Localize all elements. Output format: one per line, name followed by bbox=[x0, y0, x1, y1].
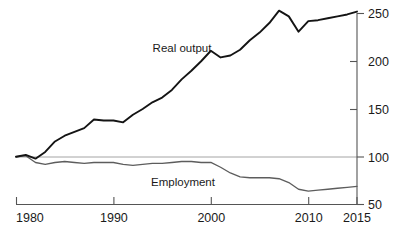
y-tick-label-200: 200 bbox=[368, 55, 389, 69]
y-tick-label-50: 50 bbox=[368, 198, 382, 212]
y-tick-label-100: 100 bbox=[368, 151, 389, 165]
series-annotations: Real output Employment bbox=[151, 42, 216, 188]
x-tick-label-1990: 1990 bbox=[100, 211, 128, 225]
chart-figure: 1980 1990 2000 2010 2015 250 200 150 100… bbox=[0, 0, 398, 233]
x-axis bbox=[16, 197, 357, 205]
x-tick-label-2010: 2010 bbox=[295, 211, 323, 225]
y-tick-labels: 250 200 150 100 50 bbox=[368, 7, 389, 212]
chart-canvas: 1980 1990 2000 2010 2015 250 200 150 100… bbox=[0, 0, 398, 233]
y-tick-label-250: 250 bbox=[368, 7, 389, 21]
series-line-real-output bbox=[16, 11, 357, 159]
annotation-real-output: Real output bbox=[153, 42, 213, 54]
annotation-employment: Employment bbox=[151, 176, 216, 188]
y-tick-label-150: 150 bbox=[368, 103, 389, 117]
x-tick-label-2000: 2000 bbox=[197, 211, 225, 225]
x-tick-labels: 1980 1990 2000 2010 2015 bbox=[16, 211, 371, 225]
y-axis bbox=[350, 13, 364, 205]
series-group bbox=[16, 11, 357, 191]
x-tick-label-2015: 2015 bbox=[343, 211, 371, 225]
x-tick-label-1980: 1980 bbox=[16, 211, 44, 225]
